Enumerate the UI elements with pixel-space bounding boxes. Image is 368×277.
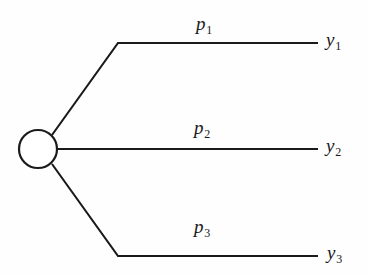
probability-label-2: p2	[194, 118, 210, 137]
source-node-circle	[19, 130, 57, 168]
branch-path-1	[52, 43, 318, 135]
probability-label-2-subscript: 2	[204, 127, 210, 141]
outcome-label-1-subscript: 1	[335, 39, 341, 53]
probability-label-3: p3	[194, 217, 210, 236]
probability-label-1: p1	[196, 14, 212, 33]
probability-label-1-subscript: 1	[206, 23, 212, 37]
outcome-label-1: y1	[326, 30, 341, 49]
outcome-label-1-symbol: y	[326, 29, 335, 50]
outcome-label-3-symbol: y	[327, 242, 336, 263]
outcome-label-2: y2	[326, 136, 341, 155]
outcome-label-2-symbol: y	[326, 135, 335, 156]
probability-label-3-symbol: p	[194, 216, 204, 237]
diagram-svg	[0, 0, 368, 277]
probability-label-3-subscript: 3	[204, 226, 210, 240]
probability-label-1-symbol: p	[196, 13, 206, 34]
probability-label-2-symbol: p	[194, 117, 204, 138]
outcome-label-2-subscript: 2	[335, 145, 341, 159]
outcome-label-3: y3	[327, 243, 342, 262]
branch-path-3	[52, 164, 318, 256]
outcome-label-3-subscript: 3	[336, 252, 342, 266]
diagram-canvas: p1 p2 p3 y1 y2 y3	[0, 0, 368, 277]
